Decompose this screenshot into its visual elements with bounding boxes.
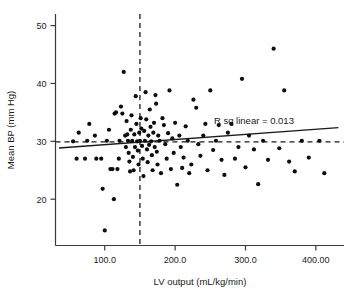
data-point xyxy=(148,107,152,111)
data-point xyxy=(134,122,138,126)
data-point xyxy=(222,173,226,177)
data-point xyxy=(141,174,145,178)
data-point xyxy=(160,116,164,120)
data-point xyxy=(83,157,87,161)
data-point xyxy=(211,148,215,152)
data-point xyxy=(119,105,123,109)
data-point xyxy=(149,139,153,143)
data-point xyxy=(120,111,124,115)
data-point xyxy=(198,154,202,158)
data-point xyxy=(142,129,146,133)
data-point xyxy=(146,160,150,164)
data-point xyxy=(132,132,136,136)
data-point xyxy=(141,157,145,161)
data-point xyxy=(117,139,121,143)
reference-lines xyxy=(56,14,345,246)
data-point xyxy=(129,113,133,117)
data-point xyxy=(322,171,326,175)
data-point xyxy=(172,151,176,155)
data-point xyxy=(191,98,195,102)
data-point xyxy=(187,171,191,175)
data-point xyxy=(226,131,230,135)
data-point xyxy=(205,168,209,172)
data-point xyxy=(87,122,91,126)
data-point xyxy=(154,102,158,106)
data-point xyxy=(138,139,142,143)
data-point xyxy=(307,155,311,159)
data-point xyxy=(151,131,155,135)
data-point xyxy=(143,90,147,94)
data-point xyxy=(131,155,135,159)
data-point xyxy=(155,150,159,154)
data-point xyxy=(140,144,144,148)
data-point xyxy=(71,139,75,143)
chart-canvas: 20304050 100.0200.0300.0400.00 R sq line… xyxy=(0,0,361,301)
y-tick-label: 40 xyxy=(36,79,46,89)
data-point xyxy=(77,131,81,135)
data-point xyxy=(127,151,131,155)
data-point xyxy=(145,147,149,151)
data-point xyxy=(129,128,133,132)
data-point xyxy=(196,142,200,146)
data-points xyxy=(71,47,326,233)
data-point xyxy=(252,147,256,151)
chart-annotations: R sq linear = 0.013 xyxy=(214,115,294,126)
data-point xyxy=(256,182,260,186)
data-point xyxy=(184,124,188,128)
x-tick-label: 200.0 xyxy=(164,255,187,265)
data-point xyxy=(152,121,156,125)
data-point xyxy=(105,139,109,143)
data-point xyxy=(177,133,181,137)
data-point xyxy=(112,197,116,201)
data-point xyxy=(317,139,321,143)
data-point xyxy=(143,139,147,143)
data-point xyxy=(159,171,163,175)
axis-lines xyxy=(56,14,345,246)
data-point xyxy=(163,142,167,146)
data-point xyxy=(136,162,140,166)
data-point xyxy=(293,169,297,173)
data-point xyxy=(134,94,138,98)
data-point xyxy=(137,131,141,135)
data-point xyxy=(136,148,140,152)
data-point xyxy=(173,121,177,125)
data-point xyxy=(114,110,118,114)
data-point xyxy=(124,145,128,149)
y-tick-label: 50 xyxy=(36,21,46,31)
data-point xyxy=(214,139,218,143)
x-axis-title: LV output (mL/kg/min) xyxy=(154,276,247,287)
data-point xyxy=(94,157,98,161)
data-point xyxy=(155,162,159,166)
data-point xyxy=(240,77,244,81)
y-axis-title: Mean BP (mm Hg) xyxy=(5,91,16,169)
data-point xyxy=(103,228,107,232)
r-squared-label: R sq linear = 0.013 xyxy=(214,115,294,126)
data-point xyxy=(117,157,121,161)
data-point xyxy=(201,133,205,137)
data-point xyxy=(179,145,183,149)
data-point xyxy=(150,153,154,157)
x-axis-ticks: 100.0200.0300.0400.00 xyxy=(93,246,329,265)
data-point xyxy=(85,139,89,143)
y-tick-label: 30 xyxy=(36,137,46,147)
data-point xyxy=(170,136,174,140)
x-tick-label: 400.00 xyxy=(302,255,330,265)
data-point xyxy=(166,131,170,135)
x-tick-label: 300.0 xyxy=(234,255,257,265)
data-point xyxy=(153,145,157,149)
data-point xyxy=(147,143,151,147)
x-tick-label: 100.0 xyxy=(93,255,116,265)
data-point xyxy=(219,158,223,162)
data-point xyxy=(180,166,184,170)
data-point xyxy=(189,162,193,166)
y-axis-ticks: 20304050 xyxy=(36,21,55,205)
data-point xyxy=(158,139,162,143)
data-point xyxy=(208,88,212,92)
data-point xyxy=(247,133,251,137)
data-point xyxy=(233,157,237,161)
data-point xyxy=(115,167,119,171)
data-point xyxy=(107,128,111,132)
data-point xyxy=(126,139,130,143)
data-point xyxy=(125,132,129,136)
data-point xyxy=(144,117,148,121)
